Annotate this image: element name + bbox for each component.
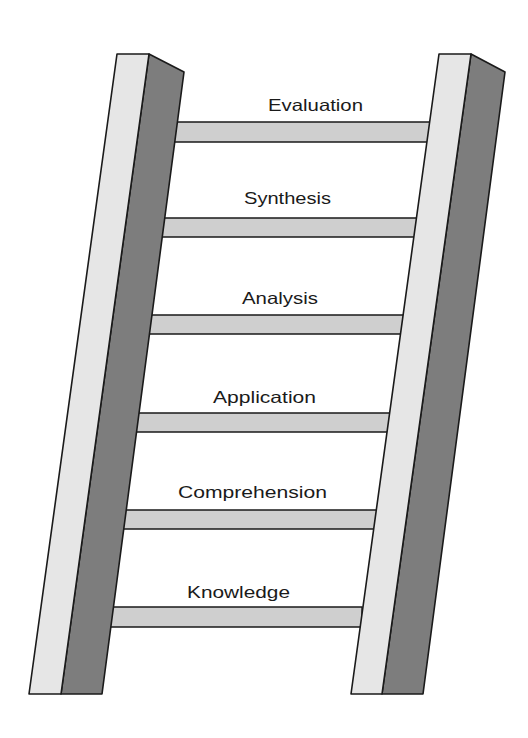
rung-knowledge [92, 607, 362, 627]
left-rail [29, 54, 184, 694]
label-evaluation: Evaluation [268, 96, 363, 114]
rung-comprehension [106, 510, 379, 529]
rung-synthesis [151, 218, 421, 237]
ladder-diagram: Evaluation Synthesis Analysis Applicatio… [0, 0, 528, 738]
label-knowledge: Knowledge [187, 583, 290, 601]
label-synthesis: Synthesis [244, 189, 331, 207]
label-comprehension: Comprehension [178, 483, 327, 501]
right-rail [351, 54, 505, 694]
label-application: Application [213, 388, 316, 406]
label-analysis: Analysis [242, 289, 318, 307]
rung-evaluation [164, 122, 432, 142]
rung-application [124, 413, 392, 432]
rung-analysis [137, 315, 406, 334]
